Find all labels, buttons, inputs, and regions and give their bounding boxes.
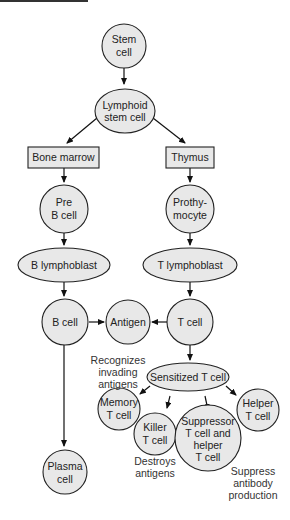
sensitized-t-cell-label: Sensitized T cell (150, 371, 226, 383)
annotation-memory: Recognizes invading antigens (91, 354, 146, 390)
node-pre-b-cell: Pre B cell (40, 185, 88, 233)
annotation-memory-line2: invading (98, 366, 137, 378)
node-sensitized-t-cell: Sensitized T cell (147, 363, 229, 391)
node-lymphoid-stem-cell: Lymphoid stem cell (95, 89, 155, 133)
b-cell-label: B cell (52, 316, 78, 328)
annotation-suppressor: Suppress antibody production (228, 465, 277, 501)
annotation-killer-line1: Destroys (134, 455, 175, 467)
node-stem-cell: Stem cell (102, 24, 146, 68)
helper-label-line1: Helper (243, 397, 274, 409)
node-suppressor-helper-t-cell: Suppressor T cell and helper T cell (175, 405, 241, 471)
edge-sensitized-to-memory (140, 386, 150, 394)
pre-b-label-line2: B cell (51, 209, 77, 221)
node-memory-t-cell: Memory T cell (98, 388, 140, 430)
annotation-memory-line3: antigens (98, 378, 138, 390)
node-antigen: Antigen (106, 300, 150, 344)
edge-lymphoid-to-bone-marrow (67, 118, 97, 143)
antigen-label: Antigen (110, 316, 146, 328)
helper-label-line2: T cell (246, 410, 271, 422)
node-b-cell: B cell (42, 299, 88, 345)
memory-label-line2: T cell (107, 409, 132, 421)
stem-cell-label-line2: cell (116, 46, 132, 58)
suppressor-label-line4: T cell (196, 451, 221, 463)
memory-label-line1: Memory (100, 396, 139, 408)
suppressor-label-line2: T cell and (185, 427, 230, 439)
node-b-lymphoblast: B lymphoblast (18, 248, 110, 282)
prothymocyte-label-line1: Prothy- (173, 196, 207, 208)
suppressor-label-line1: Suppressor (181, 415, 235, 427)
node-thymus: Thymus (166, 147, 214, 168)
plasma-label-line1: Plasma (47, 460, 82, 472)
prothymocyte-label-line2: mocyte (173, 209, 207, 221)
edge-sensitized-to-killer (167, 396, 170, 408)
node-plasma-cell: Plasma cell (43, 450, 87, 494)
thymus-label: Thymus (171, 151, 208, 163)
lymphoid-label-line1: Lymphoid (102, 99, 147, 111)
b-lymphoblast-label: B lymphoblast (31, 259, 97, 271)
node-t-lymphoblast: T lymphoblast (143, 248, 237, 282)
lymphocyte-diagram: Stem cell Lymphoid stem cell Bone marrow… (0, 0, 290, 520)
pre-b-label-line1: Pre (56, 196, 73, 208)
lymphoid-label-line2: stem cell (104, 111, 145, 123)
suppressor-label-line3: helper (193, 439, 223, 451)
stem-cell-label-line1: Stem (112, 33, 137, 45)
plasma-label-line2: cell (57, 473, 73, 485)
killer-label-line1: Killer (143, 421, 167, 433)
annotation-memory-line1: Recognizes (91, 354, 146, 366)
edge-sensitized-to-helper (226, 386, 236, 395)
node-killer-t-cell: Killer T cell (134, 413, 176, 455)
annotation-killer-line2: antigens (135, 467, 175, 479)
edge-lymphoid-to-thymus (153, 118, 185, 143)
annotation-suppressor-line2: antibody (233, 477, 273, 489)
node-prothymocyte: Prothy- mocyte (166, 185, 214, 233)
killer-label-line2: T cell (143, 434, 168, 446)
node-bone-marrow: Bone marrow (28, 147, 99, 168)
t-cell-label: T cell (178, 316, 203, 328)
node-t-cell: T cell (167, 299, 213, 345)
node-helper-t-cell: Helper T cell (237, 389, 279, 431)
annotation-suppressor-line1: Suppress (231, 465, 275, 477)
annotation-killer: Destroys antigens (134, 455, 175, 479)
annotation-suppressor-line3: production (228, 489, 277, 501)
t-lymphoblast-label: T lymphoblast (157, 259, 222, 271)
bone-marrow-label: Bone marrow (32, 151, 95, 163)
